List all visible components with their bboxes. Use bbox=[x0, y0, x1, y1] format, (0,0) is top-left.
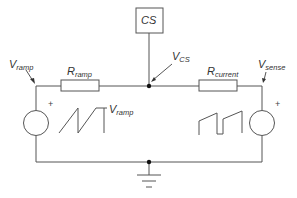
v-ramp-arrowhead-icon bbox=[30, 78, 35, 84]
cs-box-label: CS bbox=[141, 14, 157, 26]
label-v-sense: Vsense bbox=[258, 58, 285, 72]
circuit-diagram: + + CS Vramp Rramp VCS Rcurrent Vsense V… bbox=[0, 0, 297, 198]
left-voltage-source bbox=[24, 111, 49, 136]
label-v-ramp-top: Vramp bbox=[9, 58, 33, 72]
sawtooth-waveform-icon bbox=[59, 108, 104, 133]
right-voltage-source bbox=[250, 111, 275, 136]
v-cs-pointer bbox=[153, 64, 172, 80]
node-vcs bbox=[147, 84, 151, 88]
resistor-r-ramp bbox=[61, 80, 99, 91]
resistor-r-current bbox=[199, 80, 237, 91]
label-v-cs: VCS bbox=[172, 50, 190, 64]
label-v-ramp-wave: Vramp bbox=[109, 103, 133, 117]
right-source-plus: + bbox=[275, 99, 280, 109]
label-r-ramp: Rramp bbox=[67, 65, 92, 79]
label-r-current: Rcurrent bbox=[207, 65, 239, 79]
sense-waveform-icon bbox=[199, 111, 242, 135]
left-source-plus: + bbox=[48, 99, 53, 109]
v-sense-arrowhead-icon bbox=[262, 78, 266, 83]
node-ground bbox=[147, 160, 151, 164]
